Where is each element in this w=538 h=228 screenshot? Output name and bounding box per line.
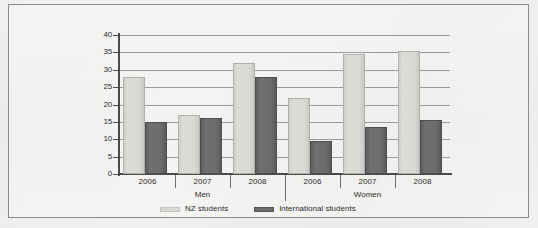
figure-caption-clipped — [0, 221, 538, 228]
category-separator-5 — [395, 175, 396, 188]
y-tick-15: 15 — [88, 118, 112, 126]
category-separator-2 — [230, 175, 231, 188]
bar-men-2006-intl — [145, 122, 167, 174]
x-tick-label-men-2008: 2008 — [230, 177, 285, 187]
y-tick-label-15: 15 — [90, 118, 112, 126]
y-tick-mark-5 — [113, 157, 119, 158]
y-tick-mark-25 — [113, 87, 119, 88]
y-tick-label-0: 0 — [90, 170, 112, 178]
bar-men-2008-nz — [233, 63, 255, 174]
category-separator-4 — [340, 175, 341, 188]
bar-men-2006-nz — [123, 77, 145, 174]
y-tick-label-5: 5 — [90, 153, 112, 161]
y-tick-mark-0 — [113, 174, 119, 175]
legend-item-nz-students: NZ students — [160, 204, 228, 214]
bar-men-2008-intl — [255, 77, 277, 174]
bar-women-2006-nz — [288, 98, 310, 174]
bar-women-2008-intl — [420, 120, 442, 174]
group-label-women: Women — [340, 190, 395, 200]
bar-women-2007-nz — [343, 54, 365, 174]
category-separator-1 — [175, 175, 176, 188]
y-tick-40: 40 — [88, 31, 112, 39]
y-tick-mark-30 — [113, 70, 119, 71]
x-tick-label-women-2008: 2008 — [395, 177, 450, 187]
legend-item-international-students: International students — [254, 204, 356, 214]
grouped-bar-chart: NZ students International students 05101… — [0, 0, 538, 228]
y-tick-30: 30 — [88, 66, 112, 74]
x-tick-label-women-2007: 2007 — [340, 177, 395, 187]
y-tick-25: 25 — [88, 83, 112, 91]
y-tick-5: 5 — [88, 153, 112, 161]
y-tick-label-20: 20 — [90, 101, 112, 109]
y-tick-label-40: 40 — [90, 31, 112, 39]
bar-women-2006-intl — [310, 141, 332, 174]
y-tick-label-30: 30 — [90, 66, 112, 74]
y-tick-mark-40 — [113, 35, 119, 36]
y-tick-label-25: 25 — [90, 83, 112, 91]
bar-men-2007-nz — [178, 115, 200, 174]
bar-women-2008-nz — [398, 51, 420, 174]
legend-label-international-students: International students — [279, 204, 356, 214]
y-tick-20: 20 — [88, 101, 112, 109]
chart-legend: NZ students International students — [160, 203, 356, 215]
group-label-men: Men — [175, 190, 230, 200]
y-tick-mark-20 — [113, 105, 119, 106]
x-tick-label-men-2007: 2007 — [175, 177, 230, 187]
x-tick-label-women-2006: 2006 — [285, 177, 340, 187]
legend-swatch-international-students — [254, 207, 274, 212]
bar-men-2007-intl — [200, 118, 222, 174]
y-tick-0: 0 — [88, 170, 112, 178]
y-tick-label-10: 10 — [90, 135, 112, 143]
bar-women-2007-intl — [365, 127, 387, 174]
legend-label-nz-students: NZ students — [185, 204, 228, 214]
y-tick-35: 35 — [88, 48, 112, 56]
gridline-40 — [120, 35, 450, 36]
y-tick-mark-10 — [113, 139, 119, 140]
y-tick-10: 10 — [88, 135, 112, 143]
x-tick-label-men-2006: 2006 — [120, 177, 175, 187]
scanned-figure-page: NZ students International students 05101… — [0, 0, 538, 228]
legend-swatch-nz-students — [160, 207, 180, 212]
y-tick-mark-35 — [113, 52, 119, 53]
group-separator — [285, 175, 286, 201]
y-tick-mark-15 — [113, 122, 119, 123]
y-tick-label-35: 35 — [90, 48, 112, 56]
